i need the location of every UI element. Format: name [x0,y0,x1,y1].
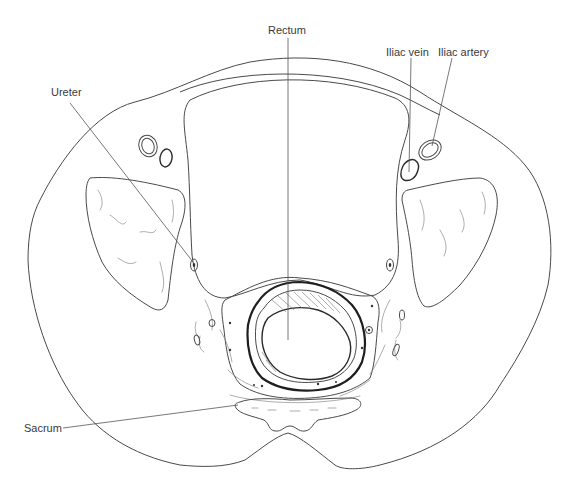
rectum-inner-wall [255,290,356,383]
pelvis-cross-section-drawing [0,0,578,491]
left-iliac-artery [136,133,160,160]
label-iliac-artery: Iliac artery [438,46,489,58]
body-outline [28,58,551,469]
rectum-hatching [262,292,340,372]
label-rectum: Rectum [268,24,306,36]
label-iliac-vein: Iliac vein [386,46,429,58]
pelvis-cross-section-figure: Rectum Iliac vein Iliac artery Ureter Sa… [0,0,578,491]
right-iliac-bone [402,178,497,307]
left-iliac-bone [86,178,185,310]
ureter-leader-line [70,103,193,262]
sacrum-leader-line [63,405,238,428]
label-sacrum: Sacrum [24,422,62,434]
iliac-artery-leader-line [432,58,452,146]
left-iliac-vein [159,148,174,168]
iliac-vein-leader-line [409,58,411,172]
right-iliac-artery [415,136,445,165]
pelvic-cavity-outline [184,80,409,298]
label-ureter: Ureter [51,86,82,98]
right-iliac-vein [401,160,419,181]
rectal-lumen [262,308,351,380]
